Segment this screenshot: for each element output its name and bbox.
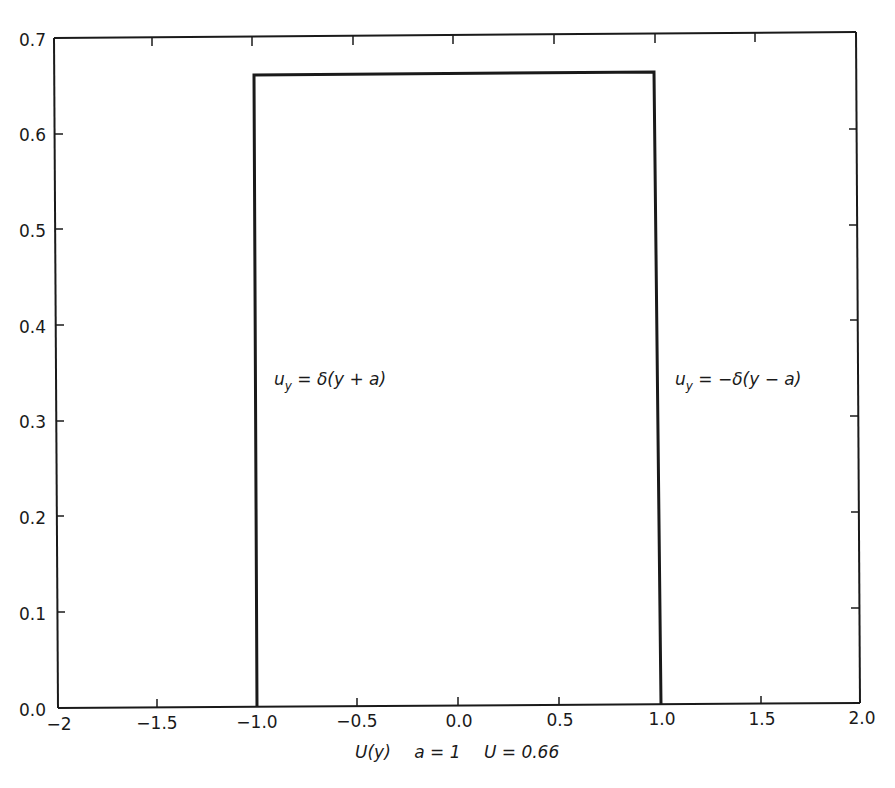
x-tick-label: 1.0 (648, 709, 675, 729)
y-tick-label: 0.5 (19, 221, 46, 241)
x-tick-label: 2.0 (848, 708, 875, 728)
x-tick-label: −0.5 (336, 711, 377, 731)
x-tick-labels: −2 −1.5 −1.0 −0.5 0.0 0.5 1.0 1.5 2.0 (46, 708, 875, 734)
x-tick-label: −2 (46, 714, 71, 734)
y-tick-label: 0.6 (19, 125, 46, 145)
x-tick-label: −1.0 (236, 712, 277, 732)
annotation-right-boundary: uy = −δ(y − a) (675, 369, 801, 393)
series-U-profile (254, 72, 661, 707)
x-label-var: U(y) (355, 742, 391, 762)
y-tick-label: 0.1 (19, 604, 46, 624)
y-tick-label: 0.2 (19, 508, 46, 528)
x-tick-label: 0.5 (546, 710, 573, 730)
y-tick-labels: 0.0 0.1 0.2 0.3 0.4 0.5 0.6 0.7 (19, 30, 46, 720)
x-tick-label: 0.0 (445, 711, 472, 731)
x-tick-label: −1.5 (136, 713, 177, 733)
svg-text:U(y) a = 1 U = 0.6: U(y) a = 1 U = 0.66 (355, 742, 559, 762)
annotation-left-boundary: uy = δ(y + a) (274, 369, 386, 393)
x-label-param-U: U = 0.66 (484, 742, 560, 762)
x-axis-label: U(y) a = 1 U = 0.66 (355, 742, 559, 762)
y-tick-label: 0.4 (19, 317, 46, 337)
y-tick-label: 0.7 (19, 30, 46, 50)
y-tick-label: 0.0 (19, 700, 46, 720)
x-tick-label: 1.5 (748, 709, 775, 729)
y-tick-label: 0.3 (19, 412, 46, 432)
x-label-param-a: a = 1 (414, 742, 460, 762)
chart: 0.0 0.1 0.2 0.3 0.4 0.5 0.6 0.7 −2 −1.5 … (0, 0, 895, 788)
